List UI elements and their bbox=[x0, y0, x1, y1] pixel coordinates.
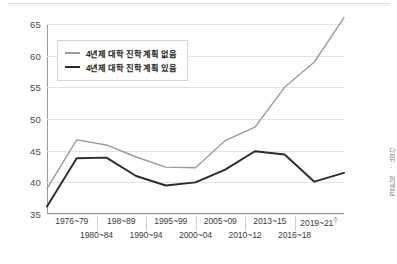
x-label-separator bbox=[196, 216, 197, 231]
y-tick-label: 45 bbox=[15, 145, 41, 156]
chart-container: 35404550556065 4년제 대학 진학 계획 없음 4년제 대학 진학… bbox=[0, 0, 397, 264]
top-divider-secondary bbox=[8, 5, 389, 6]
legend-line-swatch-black bbox=[65, 66, 80, 68]
y-axis-tick-labels: 35404550556065 bbox=[13, 24, 41, 214]
x-axis-row-lower: 1980~841990~942000~042010~122016~18 bbox=[47, 230, 344, 245]
x-tick-label-lower: 1980~84 bbox=[80, 230, 113, 240]
x-label-separator bbox=[97, 216, 98, 231]
x-label-separator bbox=[295, 216, 296, 231]
y-tick-label: 60 bbox=[15, 50, 41, 61]
x-axis-labels: 1976~79198~891995~992005~092013~152019~2… bbox=[47, 214, 344, 254]
x-tick-label-upper: 1995~99 bbox=[154, 216, 187, 226]
x-tick-label-upper: 198~89 bbox=[107, 216, 135, 226]
x-label-separator bbox=[146, 216, 147, 231]
side-unit-note: 단위: 퍼센트 bbox=[388, 148, 395, 197]
y-tick-label: 35 bbox=[15, 209, 41, 220]
x-tick-label-lower: 1990~94 bbox=[130, 230, 163, 240]
x-tick-label-upper: 2005~09 bbox=[204, 216, 237, 226]
y-tick-label: 65 bbox=[15, 19, 41, 30]
top-divider bbox=[8, 3, 389, 4]
x-tick-label-upper: 2013~15 bbox=[253, 216, 286, 226]
x-axis-row-upper: 1976~79198~891995~992005~092013~152019~2… bbox=[47, 216, 344, 231]
x-tick-label-lower: 2010~12 bbox=[229, 230, 262, 240]
x-tick-label-lower: 2000~04 bbox=[179, 230, 212, 240]
y-tick-label: 55 bbox=[15, 82, 41, 93]
y-tick-label: 50 bbox=[15, 114, 41, 125]
chart-legend: 4년제 대학 진학 계획 없음 4년제 대학 진학 계획 있음 bbox=[57, 40, 188, 81]
x-tick-label-lower: 2016~18 bbox=[278, 230, 311, 240]
legend-label-has-plan: 4년제 대학 진학 계획 있음 bbox=[86, 61, 177, 73]
legend-label-no-plan: 4년제 대학 진학 계획 없음 bbox=[86, 47, 177, 59]
x-tick-label-upper: 1976~79 bbox=[55, 216, 88, 226]
series-line bbox=[47, 151, 344, 206]
legend-item-no-plan: 4년제 대학 진학 계획 없음 bbox=[65, 46, 180, 60]
y-tick-label: 40 bbox=[15, 177, 41, 188]
legend-item-has-plan: 4년제 대학 진학 계획 있음 bbox=[65, 60, 180, 74]
legend-line-swatch-gray bbox=[65, 52, 80, 54]
x-label-superscript: 주 bbox=[333, 217, 338, 223]
x-tick-label-upper: 2019~21주 bbox=[300, 216, 338, 228]
x-label-separator bbox=[245, 216, 246, 231]
